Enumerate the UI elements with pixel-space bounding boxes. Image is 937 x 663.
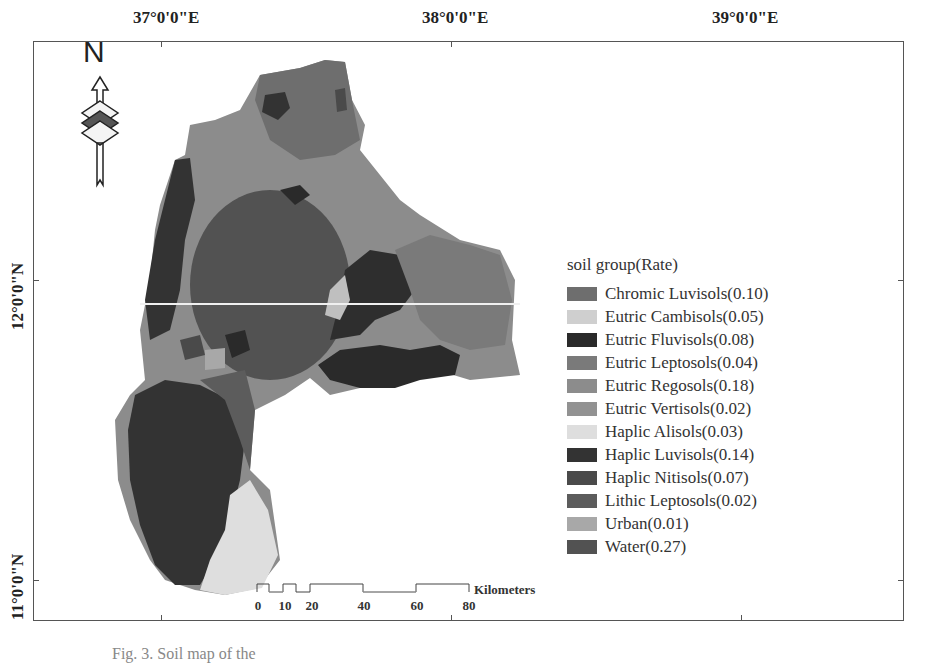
legend-item: Lithic Leptosols(0.02)	[567, 489, 768, 512]
legend-swatch	[567, 425, 597, 439]
legend-item: Eutric Regosols(0.18)	[567, 374, 768, 397]
legend-swatch	[567, 379, 597, 393]
legend-label: Haplic Luvisols(0.14)	[605, 445, 754, 465]
legend-item: Water(0.27)	[567, 535, 768, 558]
legend-swatch	[567, 448, 597, 462]
legend-swatch	[567, 517, 597, 531]
scale-unit-label: Kilometers	[474, 582, 535, 598]
legend-item: Eutric Cambisols(0.05)	[567, 305, 768, 328]
legend-swatch	[567, 356, 597, 370]
legend-label: Haplic Nitisols(0.07)	[605, 468, 749, 488]
legend-item: Chromic Luvisols(0.10)	[567, 282, 768, 305]
legend-label: Eutric Cambisols(0.05)	[605, 307, 764, 327]
legend-title: soil group(Rate)	[567, 255, 768, 279]
legend-label: Water(0.27)	[605, 537, 686, 557]
legend-swatch	[567, 494, 597, 508]
legend-label: Haplic Alisols(0.03)	[605, 422, 743, 442]
scale-tick-label: 80	[463, 598, 476, 614]
legend-item: Eutric Vertisols(0.02)	[567, 397, 768, 420]
legend-label: Eutric Leptosols(0.04)	[605, 353, 758, 373]
scale-tick-label: 10	[279, 598, 292, 614]
legend-label: Eutric Fluvisols(0.08)	[605, 330, 754, 350]
legend-swatch	[567, 540, 597, 554]
scale-tick-label: 20	[306, 598, 319, 614]
scan-artifact-line	[140, 303, 520, 305]
legend-swatch	[567, 310, 597, 324]
legend-item: Eutric Fluvisols(0.08)	[567, 328, 768, 351]
legend-item: Haplic Luvisols(0.14)	[567, 443, 768, 466]
legend-swatch	[567, 402, 597, 416]
map-legend: soil group(Rate) Chromic Luvisols(0.10) …	[567, 255, 768, 558]
legend-swatch	[567, 471, 597, 485]
legend-item: Eutric Leptosols(0.04)	[567, 351, 768, 374]
legend-label: Chromic Luvisols(0.10)	[605, 284, 768, 304]
legend-item: Haplic Nitisols(0.07)	[567, 466, 768, 489]
legend-swatch	[567, 333, 597, 347]
scale-bar-graphic	[256, 582, 471, 596]
figure-caption: Fig. 3. Soil map of the	[112, 645, 256, 663]
legend-swatch	[567, 287, 597, 301]
legend-item: Haplic Alisols(0.03)	[567, 420, 768, 443]
legend-label: Urban(0.01)	[605, 514, 689, 534]
north-arrow-icon	[78, 35, 128, 195]
legend-label: Eutric Vertisols(0.02)	[605, 399, 751, 419]
legend-label: Lithic Leptosols(0.02)	[605, 491, 757, 511]
legend-item: Urban(0.01)	[567, 512, 768, 535]
scale-tick-label: 0	[255, 598, 262, 614]
scale-tick-label: 60	[411, 598, 424, 614]
legend-label: Eutric Regosols(0.18)	[605, 376, 754, 396]
scale-tick-label: 40	[358, 598, 371, 614]
